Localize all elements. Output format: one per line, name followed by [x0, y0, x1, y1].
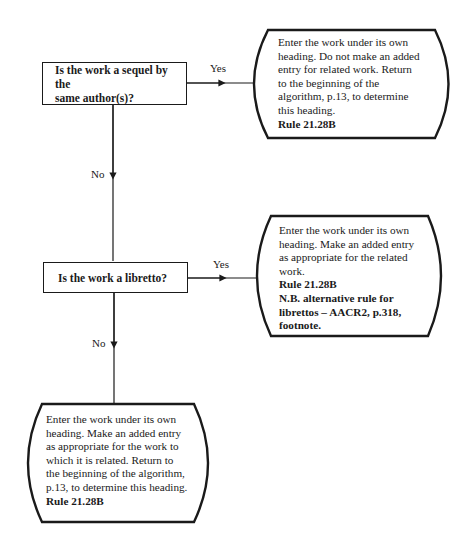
- outcome-t3-text: Enter the work under its own heading. Ma…: [46, 413, 187, 508]
- outcome-t1-line: heading. Do not make an added: [278, 50, 420, 64]
- q2-no-label: No: [92, 337, 105, 349]
- decision-sequel-text-1: Is the work a sequel by the: [55, 63, 178, 91]
- outcome-t2-note: footnote.: [279, 319, 414, 333]
- outcome-t3-rule: Rule 21.28B: [46, 495, 187, 509]
- decision-sequel-text-2: same author(s)?: [55, 91, 178, 105]
- outcome-t2-rule: Rule 21.28B: [279, 278, 414, 292]
- decision-libretto-text: Is the work a libretto?: [58, 271, 167, 285]
- decision-sequel-box: Is the work a sequel by the same author(…: [42, 62, 187, 105]
- outcome-t1-text: Enter the work under its own heading. Do…: [278, 36, 420, 131]
- q1-no-label: No: [91, 168, 104, 180]
- outcome-t1-line: to the beginning of the: [278, 77, 420, 91]
- q1-yes-label: Yes: [210, 62, 226, 74]
- q2-yes-label: Yes: [213, 258, 229, 270]
- outcome-t2-note: N.B. alternative rule for: [279, 292, 414, 306]
- outcome-t3-line: the beginning of the algorithm,: [46, 467, 187, 481]
- outcome-t2-text: Enter the work under its own heading. Ma…: [279, 224, 414, 333]
- outcome-t3-line: p.13, to determine this heading.: [46, 481, 187, 495]
- outcome-t3-line: heading. Make an added entry: [46, 427, 187, 441]
- outcome-t1-line: entry for related work. Return: [278, 63, 420, 77]
- decision-libretto-box: Is the work a libretto?: [43, 262, 188, 293]
- outcome-t3-line: Enter the work under its own: [46, 413, 187, 427]
- outcome-t2-line: work.: [279, 265, 414, 279]
- outcome-t2-line: Enter the work under its own: [279, 224, 414, 238]
- outcome-t1-line: Enter the work under its own: [278, 36, 420, 50]
- outcome-t3-line: as appropriate for the work to: [46, 440, 187, 454]
- outcome-t1-rule: Rule 21.28B: [278, 118, 420, 132]
- outcome-t2-note: librettos – AACR2, p.318,: [279, 306, 414, 320]
- outcome-t2-line: heading. Make an added entry: [279, 238, 414, 252]
- outcome-t3-line: which it is related. Return to: [46, 454, 187, 468]
- outcome-t1-line: this heading.: [278, 104, 420, 118]
- outcome-t1-line: algorithm, p.13, to determine: [278, 90, 420, 104]
- outcome-t2-line: as appropriate for the related: [279, 251, 414, 265]
